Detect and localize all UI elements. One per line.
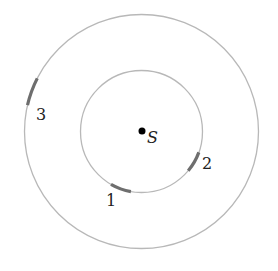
marker-label-1: 1 <box>106 191 116 210</box>
star-label: S <box>147 128 158 147</box>
marker-arc-3 <box>28 78 38 105</box>
marker-label-2: 2 <box>202 154 212 173</box>
marker-label-3: 3 <box>36 105 46 124</box>
marker-arc-2 <box>188 152 199 170</box>
orbit-diagram: S 1 2 3 <box>0 0 278 271</box>
star-dot <box>139 128 146 135</box>
